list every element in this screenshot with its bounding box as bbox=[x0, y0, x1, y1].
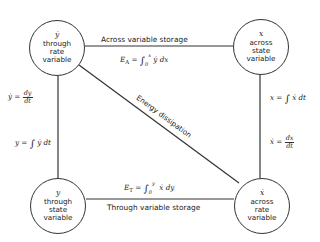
node-label-line: variable bbox=[248, 214, 277, 222]
integral-sign: ∫ bbox=[30, 138, 35, 149]
edge-bottom-equation: ET = ∫0y ẋ dy bbox=[124, 180, 174, 195]
node-across-rate-variable: ẋ across rate variable bbox=[234, 178, 290, 234]
node-across-state-variable: x across state variable bbox=[233, 19, 289, 75]
edge-left-equation-top: ẏ = dydt bbox=[8, 90, 33, 105]
edge-left-equation-bottom: y = ∫ ẏ dt bbox=[15, 138, 51, 149]
node-label-line: variable bbox=[43, 56, 72, 64]
node-label-line: variable bbox=[44, 214, 73, 222]
edge-right-equation-top: x = ∫ ẋ dt bbox=[270, 93, 306, 104]
node-through-state-variable: y through state variable bbox=[30, 178, 86, 234]
edge-bottom-label: Through variable storage bbox=[107, 203, 200, 212]
edge-right-equation-bottom: ẋ = dxdt bbox=[270, 135, 294, 150]
edge-top-equation: EA = ∫0x ẏ dx bbox=[120, 52, 168, 67]
integral-sign: ∫ bbox=[285, 93, 290, 104]
node-through-rate-variable: ẏ through rate variable bbox=[29, 20, 85, 76]
node-label-line: variable bbox=[247, 55, 276, 63]
edge-top-label: Across variable storage bbox=[101, 35, 188, 44]
edge-diagonal bbox=[79, 65, 239, 183]
